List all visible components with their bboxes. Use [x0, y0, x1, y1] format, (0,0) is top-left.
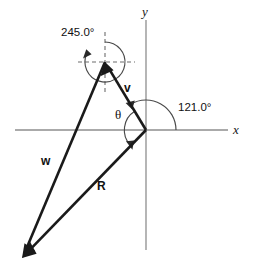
vector-diagram-canvas: x y 245.0° 121.0° θ [0, 0, 264, 271]
axes-group: x y [15, 4, 239, 250]
angle-theta-arc [124, 111, 134, 145]
y-axis-label: y [140, 4, 148, 19]
angle-theta-label: θ [115, 107, 121, 122]
vector-R-group: R [22, 130, 146, 258]
vector-R-label: R [97, 179, 106, 193]
vector-v-label: v [124, 81, 131, 95]
vector-w-line [27, 62, 105, 247]
vector-w-label: w [40, 154, 51, 168]
vector-R-line [31, 130, 146, 249]
vector-v-group: v [100, 62, 146, 130]
vector-w-group: w [22, 62, 105, 258]
x-axis-label: x [232, 122, 239, 137]
vector-diagram-figure: x y 245.0° 121.0° θ [0, 0, 264, 271]
angle-245-group: 245.0° [61, 26, 125, 82]
angle-121-label: 121.0° [178, 101, 211, 113]
angle-245-arrowhead [83, 49, 92, 58]
angle-245-label: 245.0° [61, 26, 94, 38]
